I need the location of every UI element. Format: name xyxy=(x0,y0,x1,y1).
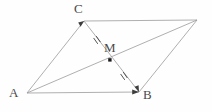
segment-CB-diagonal xyxy=(84,21,139,92)
segment-AB xyxy=(27,92,139,93)
tick-mark-MB xyxy=(121,72,128,80)
segment-AC xyxy=(27,21,84,93)
vertex-label-A: A xyxy=(9,86,18,99)
geometry-figure: A C B M xyxy=(0,0,212,112)
tick-mark-CM xyxy=(94,36,101,44)
geometry-canvas xyxy=(0,0,212,112)
vertex-label-B: B xyxy=(143,88,152,101)
segment-BD xyxy=(139,20,197,92)
point-dot-M xyxy=(108,58,111,61)
segment-CD xyxy=(84,20,197,21)
vertex-label-C: C xyxy=(74,2,83,15)
arrowhead-at-C xyxy=(78,21,84,27)
vertex-label-M: M xyxy=(104,41,116,54)
